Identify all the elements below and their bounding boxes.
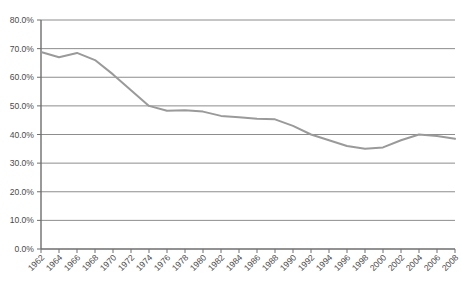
x-axis-tick-label: 1980	[188, 252, 209, 273]
x-axis-tick-label: 1962	[26, 252, 47, 273]
x-axis-tick-label: 1994	[314, 252, 335, 273]
x-axis-tick-label: 1990	[278, 252, 299, 273]
x-axis-tick-label: 1998	[350, 252, 371, 273]
x-axis-tick-label: 2004	[404, 252, 425, 273]
chart-plot-area: 0.0%10.0%20.0%30.0%40.0%50.0%60.0%70.0%8…	[0, 0, 461, 285]
x-axis-tick-label: 1984	[224, 252, 245, 273]
x-axis-tick-label: 1982	[206, 252, 227, 273]
x-axis-tick-label: 1986	[242, 252, 263, 273]
y-axis-tick-label: 70.0%	[10, 44, 35, 54]
x-axis-tick-label: 1976	[152, 252, 173, 273]
y-axis-tick-label: 30.0%	[10, 158, 35, 168]
gridlines	[41, 20, 455, 220]
x-axis-tick-label: 2002	[386, 252, 407, 273]
x-axis-tick-label: 1972	[116, 252, 137, 273]
y-axis-tick-labels: 0.0%10.0%20.0%30.0%40.0%50.0%60.0%70.0%8…	[10, 15, 35, 254]
x-axis-tick-label: 1978	[170, 252, 191, 273]
x-axis-tick-label: 1966	[62, 252, 83, 273]
x-axis-tick-label: 1992	[296, 252, 317, 273]
x-axis-tick-label: 2006	[422, 252, 443, 273]
x-axis-tick-label: 1996	[332, 252, 353, 273]
y-axis-tick-label: 0.0%	[14, 244, 34, 254]
y-axis-tick-label: 80.0%	[10, 15, 35, 25]
x-axis-tick-label: 1970	[98, 252, 119, 273]
y-axis-tick-label: 40.0%	[10, 130, 35, 140]
x-axis-tick-labels: 1962196419661968197019721974197619781980…	[26, 252, 461, 273]
x-axis-tick-label: 1968	[80, 252, 101, 273]
x-axis-tick-label: 1974	[134, 252, 155, 273]
y-axis-tick-label: 50.0%	[10, 101, 35, 111]
x-axis-tick-label: 2000	[368, 252, 389, 273]
x-axis-tick-label: 2008	[440, 252, 461, 273]
line-chart: 0.0%10.0%20.0%30.0%40.0%50.0%60.0%70.0%8…	[0, 0, 461, 285]
x-axis-tick-label: 1988	[260, 252, 281, 273]
y-axis-tick-label: 20.0%	[10, 187, 35, 197]
y-axis-tick-label: 60.0%	[10, 72, 35, 82]
x-axis-tick-label: 1964	[44, 252, 65, 273]
y-axis-tick-label: 10.0%	[10, 215, 35, 225]
